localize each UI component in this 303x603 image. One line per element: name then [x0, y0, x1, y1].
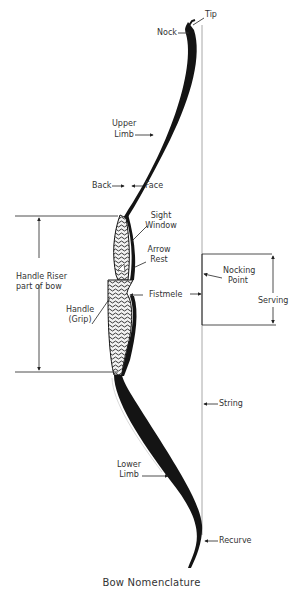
label-upper-limb-line1: Upper [112, 119, 136, 129]
label-arrow-rest-line1: Arrow [143, 245, 175, 255]
label-recurve: Recurve [219, 536, 252, 546]
label-handle-line1: Handle [64, 305, 96, 315]
label-handle-line2: (Grip) [64, 315, 96, 325]
label-nocking-point-line2: Point [228, 276, 248, 286]
label-sight-window-line1: Sight [143, 211, 179, 221]
label-handle-riser-line1: Handle Riser [16, 272, 67, 282]
label-face: Face [145, 181, 163, 191]
diagram-caption: Bow Nomenclature [0, 577, 303, 588]
label-upper-limb-line2: Limb [112, 130, 136, 140]
label-sight-window-line2: Window [143, 221, 179, 231]
label-string: String [219, 399, 243, 409]
label-lower-limb-line2: Limb [116, 470, 142, 480]
leader-tip [193, 18, 204, 25]
label-serving: Serving [258, 296, 288, 306]
label-back: Back [92, 181, 111, 191]
label-arrow-rest-line2: Rest [143, 255, 175, 265]
label-lower-limb-line1: Lower [116, 460, 142, 470]
label-nock: Nock [157, 28, 177, 38]
leader-nocking-point [204, 274, 222, 278]
label-fistmele: Fistmele [149, 290, 182, 300]
label-nocking-point-line1: Nocking [223, 266, 255, 276]
label-tip: Tip [205, 10, 217, 20]
label-handle-riser-line2: part of bow [16, 282, 62, 292]
